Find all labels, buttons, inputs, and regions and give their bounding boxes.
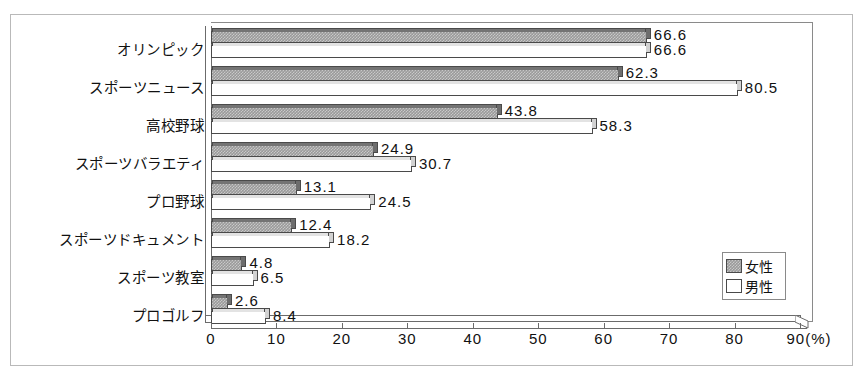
x-tick-label: 90(%) (786, 330, 831, 347)
bar-cap-top (212, 232, 329, 236)
legend-swatch-male-icon (726, 279, 742, 293)
category-label: プロ野球 (0, 190, 204, 211)
bar-male (211, 311, 266, 324)
bar-cap-right (592, 118, 597, 129)
x-tick-mark (211, 323, 212, 329)
bar-cap-right (370, 194, 375, 205)
x-tick-label: 80 (725, 330, 744, 347)
bar-cap-top (212, 28, 646, 32)
x-tick-mark (604, 323, 605, 329)
legend-item-female: 女性 (726, 256, 782, 276)
category-label: スポーツニュース (0, 76, 204, 97)
bar-value-label: 12.4 (299, 216, 332, 233)
x-tick-label: 50 (529, 330, 548, 347)
bar-value-label: 2.6 (235, 292, 259, 309)
legend-label-male: 男性 (745, 276, 773, 296)
bar-row: スポーツバラエティ24.930.7 (0, 141, 864, 179)
bar-cap-right (329, 232, 334, 243)
bar-value-label: 24.5 (378, 193, 411, 210)
bar-value-label: 30.7 (419, 155, 452, 172)
bar-cap-right (411, 156, 416, 167)
bar-male (211, 197, 371, 210)
x-tick-label: 0 (206, 330, 215, 347)
bar-value-label: 58.3 (600, 117, 633, 134)
x-tick-mark (735, 323, 736, 329)
bar-value-label: 6.5 (261, 269, 285, 286)
chart-container: オリンピック66.666.6スポーツニュース62.380.5高校野球43.858… (0, 0, 864, 379)
legend-item-male: 男性 (726, 276, 782, 296)
bar-cap-right (497, 104, 502, 115)
bar-cap-right (646, 28, 651, 39)
bar-row: スポーツドキュメント12.418.2 (0, 217, 864, 255)
bar-value-label: 62.3 (626, 64, 659, 81)
x-tick-label: 20 (333, 330, 352, 347)
x-tick-label: 10 (267, 330, 286, 347)
bar-male (211, 121, 593, 134)
category-label: オリンピック (0, 38, 204, 59)
x-axis-tick-labels: 0102030405060708090(%) (0, 330, 864, 356)
x-tick-label: 30 (398, 330, 417, 347)
x-tick-mark (800, 323, 801, 329)
bar-cap-top (212, 308, 265, 312)
bar-value-label: 24.9 (381, 140, 414, 157)
bar-male (211, 83, 738, 96)
bar-cap-top (212, 104, 497, 108)
bar-cap-right (618, 66, 623, 77)
bar-cap-top (212, 194, 370, 198)
bar-male (211, 273, 254, 286)
bar-row: 高校野球43.858.3 (0, 103, 864, 141)
bar-value-label: 13.1 (304, 178, 337, 195)
bar-cap-top (212, 66, 618, 70)
bar-cap-top (212, 118, 592, 122)
legend-swatch-female-icon (726, 259, 742, 273)
legend: 女性 男性 (722, 252, 786, 300)
bar-value-label: 18.2 (337, 231, 370, 248)
x-tick-label: 70 (660, 330, 679, 347)
bar-cap-right (253, 270, 258, 281)
category-label: スポーツバラエティ (0, 152, 204, 173)
bar-value-label: 66.6 (654, 41, 687, 58)
bar-cap-top (212, 218, 291, 222)
bar-cap-right (296, 180, 301, 191)
bar-male (211, 235, 330, 248)
bar-cap-right (373, 142, 378, 153)
x-tick-mark (407, 323, 408, 329)
bar-cap-top (212, 80, 737, 84)
x-tick-mark (669, 323, 670, 329)
x-tick-mark (276, 323, 277, 329)
bar-cap-top (212, 180, 296, 184)
bar-row: プロ野球13.124.5 (0, 179, 864, 217)
bar-value-label: 80.5 (745, 79, 778, 96)
bar-cap-right (646, 42, 651, 53)
category-label: スポーツドキュメント (0, 228, 204, 249)
category-label: 高校野球 (0, 114, 204, 135)
bar-cap-top (212, 156, 411, 160)
bar-male (211, 159, 412, 172)
bar-cap-top (212, 270, 253, 274)
x-tick-label: 60 (594, 330, 613, 347)
bar-row: オリンピック66.666.6 (0, 27, 864, 65)
x-tick-mark (538, 323, 539, 329)
bar-row: スポーツニュース62.380.5 (0, 65, 864, 103)
x-tick-label: 40 (463, 330, 482, 347)
x-tick-mark (473, 323, 474, 329)
bar-cap-right (291, 218, 296, 229)
bar-cap-top (212, 256, 241, 260)
x-tick-mark (342, 323, 343, 329)
bar-male (211, 45, 647, 58)
bar-cap-right (227, 294, 232, 305)
legend-label-female: 女性 (745, 256, 773, 276)
bar-cap-top (212, 142, 373, 146)
category-label: スポーツ教室 (0, 266, 204, 287)
bar-cap-top (212, 42, 646, 46)
bar-cap-right (241, 256, 246, 267)
bar-value-label: 43.8 (505, 102, 538, 119)
bar-cap-right (737, 80, 742, 91)
bar-cap-right (265, 308, 270, 319)
category-label: プロゴルフ (0, 304, 204, 325)
bar-value-label: 8.4 (273, 307, 297, 324)
bar-cap-top (212, 294, 227, 298)
